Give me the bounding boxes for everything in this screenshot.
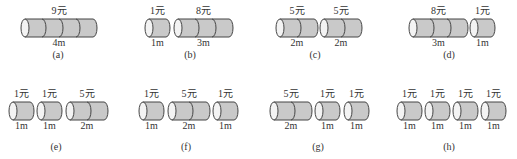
cylinder-icon	[481, 101, 506, 121]
rod-piece: 8元 3m	[174, 5, 233, 51]
price-label: 5元	[290, 5, 305, 17]
price-label: 1元	[402, 88, 417, 100]
length-label: 2m	[81, 120, 94, 132]
cylinder-icon	[276, 18, 318, 38]
length-label: 1m	[15, 120, 28, 132]
figure-caption: (b)	[184, 49, 196, 61]
rod-piece: 5元 2m	[276, 5, 318, 51]
length-label: 3m	[432, 37, 445, 49]
length-label: 4m	[53, 37, 66, 49]
price-label: 1元	[150, 5, 165, 17]
price-label: 5元	[284, 88, 299, 100]
cylinder-icon	[397, 101, 422, 121]
cylinder-icon	[409, 18, 468, 38]
figure-caption: (g)	[312, 141, 324, 153]
rod-piece: 5元 2m	[168, 88, 210, 134]
length-label: 1m	[321, 120, 334, 132]
cylinder-icon	[320, 18, 362, 38]
cylinder-icon	[425, 101, 450, 121]
cylinder-icon	[174, 18, 233, 38]
price-label: 5元	[334, 5, 349, 17]
length-label: 3m	[197, 37, 210, 49]
length-label: 1m	[151, 37, 164, 49]
rod-piece: 1元 1m	[470, 5, 495, 51]
length-label: 1m	[350, 120, 363, 132]
length-label: 1m	[219, 120, 232, 132]
cylinder-icon	[21, 18, 97, 38]
figure-caption: (a)	[52, 49, 63, 61]
price-label: 1元	[349, 88, 364, 100]
rod-piece: 1元 1m	[481, 88, 506, 134]
rod-piece: 1元 1m	[344, 88, 369, 134]
length-label: 1m	[487, 120, 500, 132]
price-label: 9元	[52, 5, 67, 17]
length-label: 2m	[291, 37, 304, 49]
figure-caption: (d)	[443, 49, 455, 61]
rod-piece: 1元 1m	[425, 88, 450, 134]
cylinder-icon	[9, 101, 34, 121]
rod-piece: 1元 1m	[37, 88, 62, 134]
cylinder-icon	[315, 101, 340, 121]
rod-piece: 5元 2m	[320, 5, 362, 51]
price-label: 8元	[431, 5, 446, 17]
length-label: 1m	[403, 120, 416, 132]
rod-piece: 9元 4m	[21, 5, 97, 51]
figure-caption: (c)	[309, 49, 320, 61]
rod-piece: 5元 2m	[270, 88, 312, 134]
price-label: 1元	[14, 88, 29, 100]
price-label: 1元	[486, 88, 501, 100]
rod-piece: 1元 1m	[9, 88, 34, 134]
length-label: 1m	[476, 37, 489, 49]
price-label: 1元	[218, 88, 233, 100]
rod-piece: 1元 1m	[213, 88, 238, 134]
length-label: 2m	[183, 120, 196, 132]
length-label: 1m	[145, 120, 158, 132]
cylinder-icon	[139, 101, 164, 121]
length-label: 1m	[43, 120, 56, 132]
cylinder-icon	[270, 101, 312, 121]
figure-caption: (e)	[50, 141, 61, 153]
rod-piece: 8元 3m	[409, 5, 468, 51]
price-label: 5元	[80, 88, 95, 100]
cylinder-icon	[145, 18, 170, 38]
cylinder-icon	[344, 101, 369, 121]
cylinder-icon	[213, 101, 238, 121]
length-label: 2m	[335, 37, 348, 49]
price-label: 8元	[196, 5, 211, 17]
figure-caption: (f)	[181, 141, 191, 153]
cylinder-icon	[168, 101, 210, 121]
price-label: 5元	[182, 88, 197, 100]
rod-piece: 1元 1m	[453, 88, 478, 134]
price-label: 1元	[320, 88, 335, 100]
rod-piece: 1元 1m	[315, 88, 340, 134]
figure-caption: (h)	[443, 141, 455, 153]
cylinder-icon	[37, 101, 62, 121]
rod-piece: 5元 2m	[66, 88, 108, 134]
rod-piece: 1元 1m	[397, 88, 422, 134]
price-label: 1元	[475, 5, 490, 17]
rod-piece: 1元 1m	[139, 88, 164, 134]
price-label: 1元	[458, 88, 473, 100]
cylinder-icon	[66, 101, 108, 121]
price-label: 1元	[42, 88, 57, 100]
price-label: 1元	[144, 88, 159, 100]
length-label: 2m	[285, 120, 298, 132]
price-label: 1元	[430, 88, 445, 100]
length-label: 1m	[459, 120, 472, 132]
cylinder-icon	[453, 101, 478, 121]
length-label: 1m	[431, 120, 444, 132]
rod-piece: 1元 1m	[145, 5, 170, 51]
cylinder-icon	[470, 18, 495, 38]
